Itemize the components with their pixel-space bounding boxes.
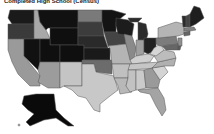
state-KS[interactable] xyxy=(84,48,110,60)
state-NM[interactable] xyxy=(60,62,82,88)
state-AK[interactable] xyxy=(22,94,74,126)
state-ND[interactable] xyxy=(78,10,102,22)
state-DE[interactable] xyxy=(178,46,181,50)
state-NJ[interactable] xyxy=(178,38,182,46)
state-WA[interactable] xyxy=(8,10,34,24)
state-NY[interactable] xyxy=(158,22,184,38)
state-IN[interactable] xyxy=(136,40,144,56)
state-FL[interactable] xyxy=(138,88,166,116)
state-HI[interactable] xyxy=(18,124,20,126)
state-CO[interactable] xyxy=(60,45,84,62)
state-ME[interactable] xyxy=(190,6,204,27)
state-MT[interactable] xyxy=(38,10,78,30)
us-choropleth-map xyxy=(0,0,214,134)
state-WY[interactable] xyxy=(50,28,78,45)
state-OR[interactable] xyxy=(8,24,34,39)
state-MA[interactable] xyxy=(184,27,196,31)
state-SD[interactable] xyxy=(78,22,104,36)
state-VT[interactable] xyxy=(182,16,186,27)
state-AR[interactable] xyxy=(112,64,130,78)
state-CT[interactable] xyxy=(184,31,190,36)
state-AZ[interactable] xyxy=(38,62,60,88)
state-NH[interactable] xyxy=(186,14,190,27)
